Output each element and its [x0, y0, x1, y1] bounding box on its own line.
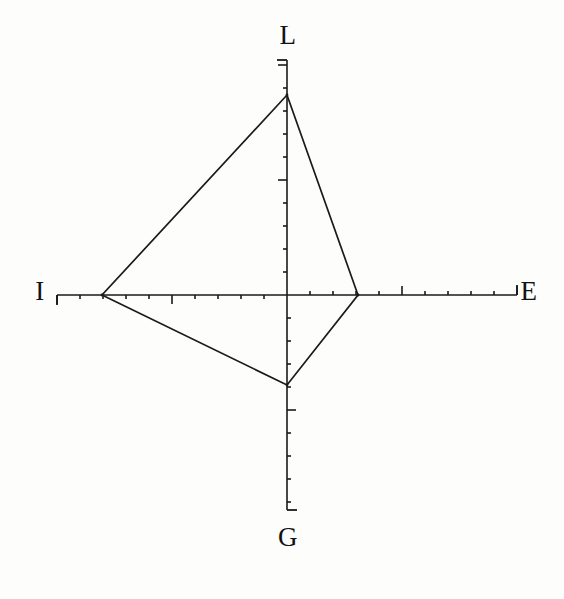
radar-chart-canvas: [0, 0, 564, 599]
axis-label-left-i: I: [18, 278, 62, 305]
data-polygon-group: [101, 94, 360, 387]
axis-label-bottom-g: G: [262, 524, 314, 551]
data-vertex-l: [286, 94, 289, 97]
axis-label-right-e: E: [506, 278, 552, 305]
radar-diagram-page: L E G I: [0, 0, 564, 599]
data-vertex-i: [101, 294, 104, 297]
axis-label-top-l: L: [262, 22, 314, 49]
data-polygon: [102, 95, 358, 385]
data-vertex-g: [286, 384, 289, 387]
axes-group: [57, 60, 517, 510]
data-vertex-e: [357, 294, 360, 297]
